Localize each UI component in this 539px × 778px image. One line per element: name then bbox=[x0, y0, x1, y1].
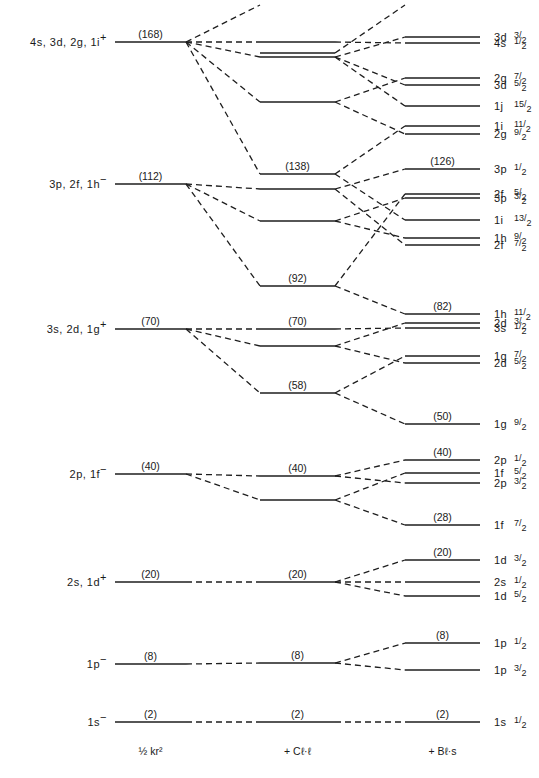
orbital-label: 1d bbox=[494, 590, 507, 602]
connector bbox=[186, 42, 260, 174]
connector bbox=[335, 582, 405, 596]
ho-level-label: 3p, 2f, 1h− bbox=[49, 173, 107, 190]
orbital-label: 1s bbox=[494, 716, 507, 728]
j-value: 1/2 bbox=[514, 575, 527, 590]
connector bbox=[186, 184, 260, 286]
magic-number: (40) bbox=[433, 446, 452, 458]
orbital-label: 2p bbox=[494, 477, 507, 489]
orbital-label: 4s bbox=[494, 37, 507, 49]
orbital-label: 1p bbox=[494, 664, 507, 676]
magic-number: (20) bbox=[433, 546, 452, 558]
orbital-label: 3p bbox=[494, 192, 507, 204]
connector bbox=[335, 500, 405, 525]
magic-number: (28) bbox=[433, 511, 452, 523]
connector bbox=[335, 643, 405, 663]
column-axis-label-ho: ½ kr² bbox=[139, 745, 163, 757]
orbital-label: 1d bbox=[494, 554, 507, 566]
connector bbox=[335, 42, 405, 43]
magic-number: (20) bbox=[141, 568, 160, 580]
transition-connectors bbox=[186, 5, 405, 722]
connector bbox=[335, 328, 405, 329]
ho-level-label: 4s, 3d, 2g, 1i+ bbox=[30, 31, 107, 48]
connector bbox=[335, 286, 405, 314]
connector bbox=[186, 663, 260, 664]
j-value: 1/2 bbox=[514, 715, 527, 730]
j-value: 15/2 bbox=[514, 99, 532, 114]
orbital-label: 3d bbox=[494, 79, 507, 91]
j-value: 5/2 bbox=[514, 589, 527, 604]
orbital-label: 2d bbox=[494, 357, 507, 369]
ho-level-label: 2p, 1f− bbox=[70, 463, 107, 480]
orbital-label: 1p bbox=[494, 637, 507, 649]
magic-number: (82) bbox=[433, 300, 452, 312]
connector bbox=[186, 474, 260, 476]
magic-number: (70) bbox=[288, 315, 307, 327]
orbital-label: 1i bbox=[494, 214, 504, 226]
connector bbox=[335, 5, 405, 53]
orbital-label: 1g bbox=[494, 418, 507, 430]
ho-level-label: 1p− bbox=[87, 653, 107, 670]
magic-number: (138) bbox=[285, 160, 310, 172]
orbital-label: 2s bbox=[494, 576, 507, 588]
orbital-label: 3s bbox=[494, 322, 507, 334]
ho-level-label: 3s, 2d, 1g+ bbox=[47, 318, 107, 335]
magic-number: (20) bbox=[288, 568, 307, 580]
j-value: 1/2 bbox=[514, 162, 527, 177]
j-value: 7/2 bbox=[514, 518, 527, 533]
magic-number: (70) bbox=[141, 315, 160, 327]
magic-number: (40) bbox=[288, 462, 307, 474]
connector bbox=[335, 37, 405, 57]
connector bbox=[186, 329, 260, 393]
magic-number: (92) bbox=[288, 272, 307, 284]
connector bbox=[335, 221, 405, 238]
magic-number: (2) bbox=[436, 708, 449, 720]
orbital-label: 2p bbox=[494, 454, 507, 466]
column-axis-label-ll: + Cℓ·ℓ bbox=[284, 745, 312, 757]
j-value: 3/2 bbox=[514, 663, 527, 678]
connector bbox=[186, 5, 260, 42]
connector bbox=[335, 393, 405, 424]
magic-number: (8) bbox=[291, 649, 304, 661]
ho-level-label: 2s, 1d+ bbox=[67, 571, 107, 588]
connector bbox=[335, 356, 405, 393]
connector bbox=[186, 184, 260, 221]
j-value: 1/2 bbox=[514, 636, 527, 651]
magic-number: (2) bbox=[291, 708, 304, 720]
magic-number: (126) bbox=[430, 155, 455, 167]
connector bbox=[335, 560, 405, 582]
connector bbox=[186, 42, 260, 57]
connector bbox=[186, 184, 260, 189]
connector bbox=[335, 663, 405, 670]
orbital-label: 1f bbox=[494, 519, 505, 531]
magic-number: (2) bbox=[144, 708, 157, 720]
connector bbox=[335, 323, 405, 346]
connector bbox=[335, 169, 405, 189]
j-value: 9/2 bbox=[514, 417, 527, 432]
connector bbox=[186, 42, 260, 102]
magic-number: (168) bbox=[138, 28, 163, 40]
magic-number: (112) bbox=[139, 170, 163, 182]
magic-number: (8) bbox=[436, 629, 449, 641]
orbital-label: 3p bbox=[494, 163, 507, 175]
column-axis-label-ls: + Bℓ·s bbox=[428, 745, 456, 757]
ho-level-label: 1s− bbox=[87, 711, 107, 728]
connector bbox=[335, 126, 405, 174]
orbital-label: 2f bbox=[494, 239, 505, 251]
magic-number: (40) bbox=[141, 460, 160, 472]
connector bbox=[186, 474, 260, 500]
connector bbox=[335, 460, 405, 476]
j-value: 13/2 bbox=[514, 213, 532, 228]
connector bbox=[335, 102, 405, 134]
magic-number: (58) bbox=[288, 379, 307, 391]
j-value: 3/2 bbox=[514, 553, 527, 568]
magic-number: (50) bbox=[433, 410, 452, 422]
j-value: 9/2 bbox=[514, 127, 527, 142]
orbital-label: 2g bbox=[494, 128, 507, 140]
connector bbox=[335, 346, 405, 363]
magic-number: (8) bbox=[144, 650, 157, 662]
connector bbox=[186, 329, 260, 346]
orbital-label: 1j bbox=[494, 100, 504, 112]
connector bbox=[335, 194, 405, 286]
shell-model-diagram: 4s, 3d, 2g, 1i+(168)3p, 2f, 1h−(112)3s, … bbox=[0, 0, 539, 778]
